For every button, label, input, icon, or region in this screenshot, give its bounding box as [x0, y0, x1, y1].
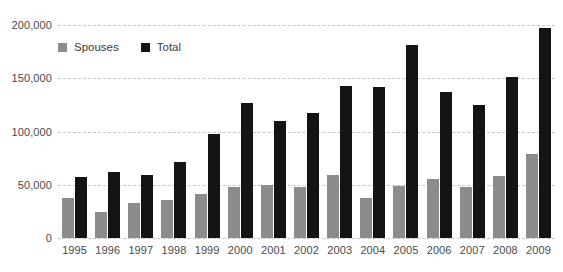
bar-group: [191, 25, 224, 238]
x-axis-tick-label: 2005: [389, 244, 422, 256]
bar-total-2000[interactable]: [241, 103, 253, 238]
bar-group: [157, 25, 190, 238]
bar-spouses-2003[interactable]: [327, 175, 339, 238]
legend-label: Spouses: [74, 41, 119, 53]
legend-item-spouses[interactable]: Spouses: [58, 41, 119, 53]
bar-total-2008[interactable]: [506, 77, 518, 238]
bar-total-2002[interactable]: [307, 113, 319, 238]
bar-total-1995[interactable]: [75, 177, 87, 238]
legend-swatch-icon: [141, 43, 150, 52]
bar-spouses-2007[interactable]: [460, 187, 472, 238]
bar-total-1998[interactable]: [174, 162, 186, 238]
bar-spouses-2006[interactable]: [427, 179, 439, 238]
bar-group: [389, 25, 422, 238]
legend-swatch-icon: [58, 43, 67, 52]
bar-group: [323, 25, 356, 238]
chart-legend: SpousesTotal: [58, 41, 181, 53]
bar-group: [91, 25, 124, 238]
bar-spouses-2009[interactable]: [526, 154, 538, 238]
bar-spouses-1995[interactable]: [62, 198, 74, 238]
bar-group: [58, 25, 91, 238]
bar-group: [124, 25, 157, 238]
x-axis-tick-label: 1996: [91, 244, 124, 256]
bar-spouses-2001[interactable]: [261, 185, 273, 238]
bar-group: [522, 25, 555, 238]
x-axis-tick-label: 2008: [489, 244, 522, 256]
bar-spouses-2008[interactable]: [493, 176, 505, 238]
x-axis-tick-label: 2003: [323, 244, 356, 256]
bar-group: [356, 25, 389, 238]
bar-group: [456, 25, 489, 238]
x-axis-tick-label: 1999: [191, 244, 224, 256]
y-axis-tick-label: 200,000: [12, 19, 52, 31]
bar-group: [489, 25, 522, 238]
y-axis-tick-label: 0: [46, 232, 52, 244]
bar-spouses-2004[interactable]: [360, 198, 372, 238]
y-axis-tick-label: 50,000: [18, 179, 52, 191]
bar-total-1996[interactable]: [108, 172, 120, 238]
legend-item-total[interactable]: Total: [141, 41, 181, 53]
cropped-title-remnant: [0, 0, 563, 9]
gridline: [58, 238, 555, 239]
x-axis-tick-label: 2001: [257, 244, 290, 256]
bar-total-2004[interactable]: [373, 87, 385, 238]
bar-group: [224, 25, 257, 238]
bar-total-2003[interactable]: [340, 86, 352, 238]
x-axis-labels: 1995199619971998199920002001200220032004…: [58, 244, 555, 256]
bar-total-2001[interactable]: [274, 121, 286, 238]
x-axis-tick-label: 2000: [224, 244, 257, 256]
y-axis-tick-label: 100,000: [12, 126, 52, 138]
x-axis-tick-label: 1997: [124, 244, 157, 256]
y-axis-tick-label: 150,000: [12, 72, 52, 84]
bar-spouses-1996[interactable]: [95, 212, 107, 238]
bar-total-2006[interactable]: [440, 92, 452, 238]
x-axis-tick-label: 2004: [356, 244, 389, 256]
bar-total-2007[interactable]: [473, 105, 485, 238]
bar-total-1997[interactable]: [141, 175, 153, 238]
bar-spouses-2000[interactable]: [228, 187, 240, 238]
bar-spouses-2005[interactable]: [393, 186, 405, 238]
bar-group: [423, 25, 456, 238]
x-axis-tick-label: 2007: [456, 244, 489, 256]
bar-group: [290, 25, 323, 238]
x-axis-tick-label: 1995: [58, 244, 91, 256]
y-axis-labels: 050,000100,000150,000200,000: [0, 25, 52, 238]
bar-total-2009[interactable]: [539, 28, 551, 238]
bar-groups: [58, 25, 555, 238]
x-axis-tick-label: 1998: [157, 244, 190, 256]
x-axis-tick-label: 2002: [290, 244, 323, 256]
x-axis-tick-label: 2009: [522, 244, 555, 256]
x-axis-tick-label: 2006: [423, 244, 456, 256]
bar-spouses-2002[interactable]: [294, 187, 306, 238]
bar-spouses-1999[interactable]: [195, 194, 207, 238]
bar-spouses-1998[interactable]: [161, 200, 173, 238]
legend-label: Total: [157, 41, 181, 53]
bar-total-2005[interactable]: [406, 45, 418, 238]
bar-total-1999[interactable]: [208, 134, 220, 238]
bar-spouses-1997[interactable]: [128, 203, 140, 238]
bar-chart: 050,000100,000150,000200,000 SpousesTota…: [0, 0, 563, 272]
bar-group: [257, 25, 290, 238]
plot-area: [58, 25, 555, 238]
